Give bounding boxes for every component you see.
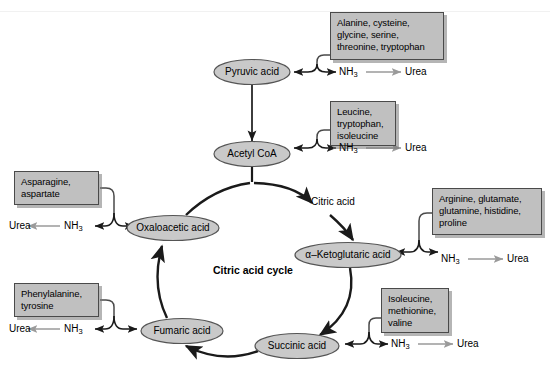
ammonia-subscript: 3 (353, 146, 357, 155)
urea-label-fumarate: Urea (9, 323, 31, 334)
ammonia-text: NH (339, 66, 353, 77)
ammonia-text: NH (391, 338, 405, 349)
urea-label-acetylcoa: Urea (405, 142, 427, 153)
ammonia-subscript: 3 (353, 70, 357, 79)
ammonia-label-succinate: NH3 (391, 338, 410, 349)
ammonia-label-acetylcoa: NH3 (339, 142, 358, 153)
ammonia-label-oxaloacetate: NH3 (64, 220, 83, 231)
node-citric-acid: Citric acid (311, 196, 355, 207)
ammonia-label-fumarate: NH3 (64, 323, 83, 334)
urea-label-ketoglutarate: Urea (507, 253, 529, 264)
ammonia-subscript: 3 (78, 224, 82, 233)
diagram-canvas: Pyruvic acid Acetyl CoA Oxaloacetic acid… (0, 0, 550, 376)
ammonia-label-pyruvate: NH3 (339, 66, 358, 77)
amino-acid-box-pyruvate: Alanine, cysteine, glycine, serine, thre… (330, 12, 444, 60)
ammonia-text: NH (64, 323, 78, 334)
urea-label-pyruvate: Urea (405, 66, 427, 77)
ammonia-subscript: 3 (78, 327, 82, 336)
amino-acid-box-oxaloacetate: Asparagine, aspartate (14, 171, 99, 205)
ammonia-label-ketoglutarate: NH3 (441, 253, 460, 264)
cycle-center-title: Citric acid cycle (213, 264, 293, 276)
ammonia-text: NH (339, 142, 353, 153)
amino-acid-box-acetyl-coa: Leucine, tryptophan, isoleucine (330, 101, 396, 146)
urea-label-oxaloacetate: Urea (9, 220, 31, 231)
ammonia-subscript: 3 (405, 342, 409, 351)
ammonia-text: NH (64, 220, 78, 231)
amino-acid-box-fumarate: Phenylalanine, tyrosine (14, 283, 99, 317)
ammonia-subscript: 3 (455, 257, 459, 266)
amino-acid-box-succinate: Isoleucine, methionine, valine (381, 288, 449, 333)
amino-acid-box-ketoglutarate: Arginine, glutamate, glutamine, histidin… (432, 188, 542, 235)
urea-label-succinate: Urea (457, 338, 479, 349)
ammonia-text: NH (441, 253, 455, 264)
